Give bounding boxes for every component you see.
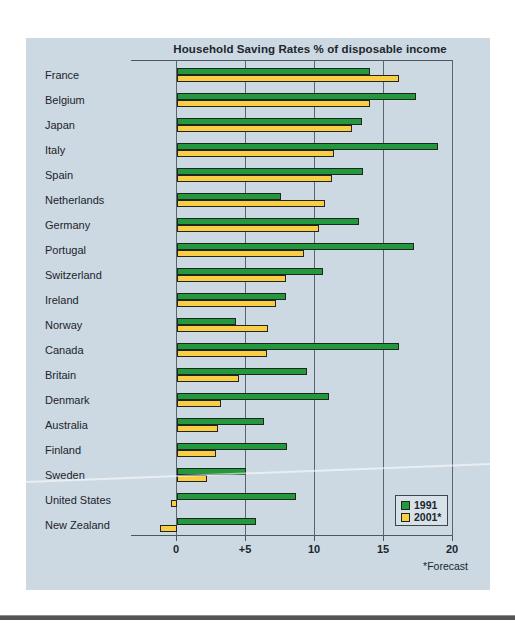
category-label: Portugal [45, 243, 133, 257]
plot-top-border [131, 60, 453, 61]
bar-1991-ireland [177, 293, 286, 300]
gridline-15 [383, 60, 384, 536]
legend-swatch-2001 [401, 513, 410, 522]
bar-2001-canada [177, 350, 267, 357]
bar-1991-germany [177, 218, 359, 225]
bar-1991-netherlands [177, 193, 281, 200]
category-label: Canada [45, 343, 133, 357]
page-bottom-rule [0, 615, 515, 620]
bar-2001-italy [177, 150, 334, 157]
plot-bottom-border [131, 535, 453, 536]
bar-2001-finland [177, 450, 216, 457]
legend-label-1991: 1991 [414, 500, 437, 510]
x-tick [176, 536, 177, 541]
bar-2001-japan [177, 125, 352, 132]
x-tick-label: 20 [437, 543, 467, 555]
bar-1991-denmark [177, 393, 329, 400]
chart-page: Household Saving Rates % of disposable i… [0, 0, 515, 623]
category-label: Italy [45, 143, 133, 157]
x-tick [314, 536, 315, 541]
category-label: Germany [45, 218, 133, 232]
bar-1991-australia [177, 418, 264, 425]
bar-2001-britain [177, 375, 239, 382]
bar-2001-norway [177, 325, 268, 332]
x-tick-label: 10 [299, 543, 329, 555]
bar-2001-spain [177, 175, 332, 182]
legend-entry-2001: 2001* [401, 511, 447, 523]
chart-title: Household Saving Rates % of disposable i… [133, 43, 487, 55]
x-tick-label: +5 [230, 543, 260, 555]
category-label: New Zealand [45, 518, 133, 532]
bar-2001-ireland [177, 300, 276, 307]
category-label: Switzerland [45, 268, 133, 282]
bar-2001-belgium [177, 100, 370, 107]
bar-1991-finland [177, 443, 287, 450]
bar-2001-germany [177, 225, 319, 232]
category-label: Norway [45, 318, 133, 332]
x-tick [452, 536, 453, 541]
category-label: Spain [45, 168, 133, 182]
bar-1991-united-states [177, 493, 296, 500]
bar-1991-france [177, 68, 370, 75]
legend-label-2001: 2001* [414, 512, 441, 522]
category-label: United States [45, 493, 133, 507]
bar-1991-new-zealand [177, 518, 256, 525]
bar-2001-new-zealand [160, 525, 177, 532]
bar-1991-japan [177, 118, 362, 125]
category-label: Finland [45, 443, 133, 457]
bar-1991-spain [177, 168, 363, 175]
forecast-note: *Forecast [423, 560, 468, 572]
category-label: Australia [45, 418, 133, 432]
x-tick [383, 536, 384, 541]
category-label: Belgium [45, 93, 133, 107]
category-label: Japan [45, 118, 133, 132]
bar-1991-norway [177, 318, 236, 325]
bar-1991-italy [177, 143, 438, 150]
bar-2001-switzerland [177, 275, 286, 282]
category-label: Ireland [45, 293, 133, 307]
bar-2001-australia [177, 425, 218, 432]
category-label: France [45, 68, 133, 82]
bar-1991-switzerland [177, 268, 323, 275]
bar-2001-netherlands [177, 200, 325, 207]
bar-2001-denmark [177, 400, 221, 407]
x-tick [245, 536, 246, 541]
legend-entry-1991: 1991 [401, 499, 447, 511]
bar-2001-france [177, 75, 399, 82]
category-label: Denmark [45, 393, 133, 407]
bar-1991-britain [177, 368, 307, 375]
legend-swatch-1991 [401, 501, 410, 510]
bar-1991-canada [177, 343, 399, 350]
bar-2001-united-states [171, 500, 177, 507]
x-tick-label: 0 [161, 543, 191, 555]
bar-2001-portugal [177, 250, 304, 257]
category-label: Britain [45, 368, 133, 382]
bar-1991-portugal [177, 243, 414, 250]
category-label: Netherlands [45, 193, 133, 207]
x-tick-label: 15 [368, 543, 398, 555]
legend: 1991 2001* [395, 495, 448, 526]
bar-1991-belgium [177, 93, 416, 100]
